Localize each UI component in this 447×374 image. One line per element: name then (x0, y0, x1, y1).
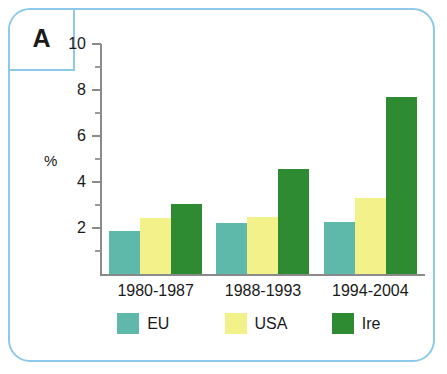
legend-item-eu[interactable]: EU (117, 313, 169, 334)
bar-group (209, 44, 316, 274)
legend-item-usa[interactable]: USA (225, 313, 288, 334)
x-axis-label-1: 1988-1993 (203, 282, 323, 300)
bar-group (317, 44, 424, 274)
legend-swatch-eu (117, 313, 139, 334)
y-minor-tick-7 (95, 112, 101, 114)
y-minor-tick-9 (95, 66, 101, 68)
bar-eu-1988-1993 (216, 223, 247, 274)
bar-eu-1980-1987 (109, 231, 140, 274)
figure-panel: A 246810 % 1980-19871988-19931994-2004 E… (8, 8, 435, 362)
bar-usa-1988-1993 (247, 217, 278, 275)
bar-group (102, 44, 209, 274)
bar-ire-1980-1987 (171, 204, 202, 274)
y-tick-4 (92, 181, 101, 183)
y-tick-8 (92, 89, 101, 91)
bar-eu-1994-2004 (324, 222, 355, 274)
legend-swatch-ire (332, 313, 354, 334)
legend-label-usa: USA (255, 315, 288, 333)
bar-ire-1988-1993 (278, 169, 309, 274)
y-tick-label-10: 10 (0, 35, 86, 53)
y-tick-label-2: 2 (0, 219, 86, 237)
legend-label-eu: EU (147, 315, 169, 333)
bar-ire-1994-2004 (386, 97, 417, 274)
bar-usa-1994-2004 (355, 198, 386, 274)
y-tick-10 (92, 43, 101, 45)
bar-usa-1980-1987 (140, 218, 171, 274)
plot-area (102, 44, 424, 274)
y-axis-title: % (44, 152, 57, 169)
y-tick-label-8: 8 (0, 81, 86, 99)
legend-label-ire: Ire (362, 315, 381, 333)
x-axis-line (100, 274, 425, 276)
y-tick-label-6: 6 (0, 127, 86, 145)
y-minor-tick-1 (95, 250, 101, 252)
chart-legend: EUUSAIre (102, 313, 424, 343)
legend-swatch-usa (225, 313, 247, 334)
legend-item-ire[interactable]: Ire (332, 313, 381, 334)
x-axis-label-0: 1980-1987 (96, 282, 216, 300)
y-tick-6 (92, 135, 101, 137)
bar-chart: 246810 % 1980-19871988-19931994-2004 EUU… (10, 10, 437, 364)
y-minor-tick-5 (95, 158, 101, 160)
y-minor-tick-3 (95, 204, 101, 206)
x-axis-label-2: 1994-2004 (310, 282, 430, 300)
y-tick-2 (92, 227, 101, 229)
y-tick-label-4: 4 (0, 173, 86, 191)
